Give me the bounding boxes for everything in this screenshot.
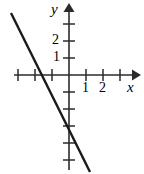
plotted-line bbox=[11, 13, 90, 172]
y-tick-label-1: 1 bbox=[53, 49, 60, 65]
x-tick-label-1: 1 bbox=[82, 80, 89, 96]
x-axis-label: x bbox=[127, 79, 134, 96]
y-tick-label-2: 2 bbox=[52, 32, 59, 48]
y-axis-label: y bbox=[51, 1, 58, 18]
y-axis-arrow-icon bbox=[64, 3, 75, 12]
coordinate-plane-figure: y x 2 1 1 2 bbox=[0, 0, 144, 174]
graph-canvas bbox=[0, 0, 144, 174]
y-axis-group bbox=[63, 3, 75, 170]
x-tick-label-2: 2 bbox=[99, 80, 106, 96]
x-axis-group bbox=[14, 69, 141, 81]
